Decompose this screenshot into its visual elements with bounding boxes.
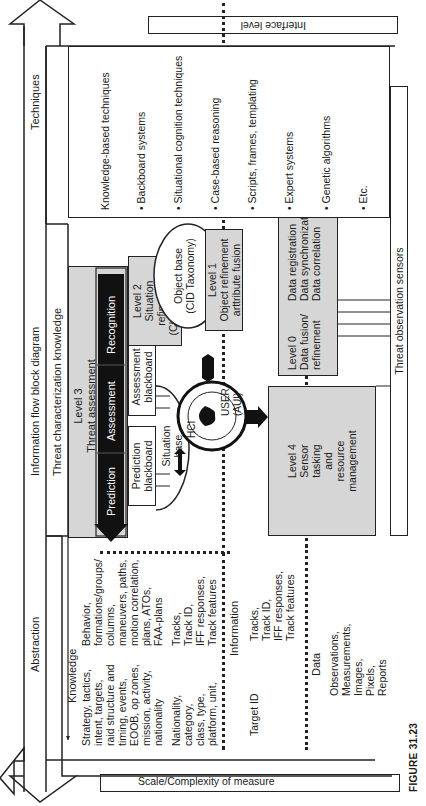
kb-item: • Etc.	[357, 56, 369, 210]
figure-caption: FIGURE 31.23	[408, 723, 419, 792]
kb-item: • Genetic algorithms	[320, 56, 332, 210]
kb-item: • Backboard systems	[135, 56, 147, 210]
kb-item: • Scripts, frames, templating	[246, 56, 258, 210]
diagram-stage: Abstraction Information flow block diagr…	[0, 0, 426, 806]
techniques-content: Knowledge-based techniques • Backboard s…	[74, 56, 426, 210]
kb-item: • Situational cognition techniques	[172, 56, 184, 210]
kb-item: • Case-based reasoning	[209, 56, 221, 210]
kb-techniques-title: Knowledge-based techniques	[99, 56, 111, 210]
kb-item: • Expert systems	[283, 56, 295, 210]
